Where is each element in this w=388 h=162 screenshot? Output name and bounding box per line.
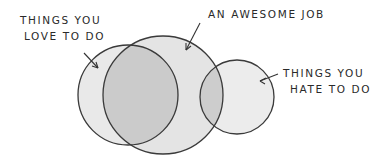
job-label-text: AN AWESOME JOB <box>208 8 325 20</box>
love-label-line2: LOVE TO DO <box>24 29 105 43</box>
love-label-line1: THINGS YOU <box>20 13 105 27</box>
love-label: THINGS YOU LOVE TO DO <box>20 13 105 43</box>
job-label: AN AWESOME JOB <box>208 7 325 21</box>
hate-label-line1: THINGS YOU <box>283 66 371 80</box>
hate-label-line2: HATE TO DO <box>290 82 371 96</box>
hate-label: THINGS YOU HATE TO DO <box>283 66 371 96</box>
